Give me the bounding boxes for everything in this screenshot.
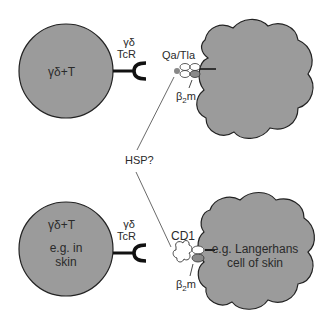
top-tcr-label: TcR <box>117 48 136 60</box>
top-tcr-label-greek: γδ <box>117 36 141 48</box>
bottom-tcr-label: TcR <box>117 230 136 242</box>
hsp-label: HSP? <box>125 154 154 166</box>
top-t-cell-label: γδ+T <box>48 66 75 78</box>
top-b2m-m: m <box>187 90 196 102</box>
bottom-tcr-receptor-icon <box>113 245 146 261</box>
top-tcr-receptor-icon <box>113 63 146 79</box>
hsp-line-top <box>137 77 174 150</box>
bottom-tcr-label-greek: γδ <box>117 218 141 230</box>
cd1-label: CD1 <box>171 230 195 242</box>
bottom-t-cell-note: e.g. in skin <box>41 241 91 269</box>
apc-label-line1: e.g. Langerhans <box>209 242 301 256</box>
bottom-b2m-m: m <box>187 278 196 290</box>
top-apc-cell <box>197 19 313 138</box>
apc-label-line2: cell of skin <box>209 256 301 270</box>
bottom-t-cell-note-line2: skin <box>41 255 91 269</box>
bottom-t-cell-label: γδ+T <box>48 219 75 231</box>
top-b2m-label: β2m <box>176 90 196 107</box>
apc-label: e.g. Langerhans cell of skin <box>209 242 301 270</box>
bottom-t-cell-note-line1: e.g. in <box>41 241 91 255</box>
qa-tla-label: Qa/Tla <box>162 49 195 61</box>
bottom-b2m-label: β2m <box>176 278 196 295</box>
hsp-line-bottom <box>136 172 171 247</box>
